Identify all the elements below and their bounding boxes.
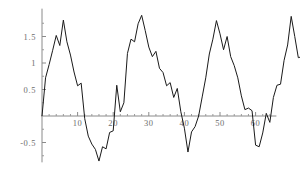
x-tick-label: 50 [215,118,225,128]
y-tick-label: 0.5 [24,85,36,95]
tick-labels-group: 102030405060-0.50.511.5 [20,32,260,148]
x-tick-label: 10 [73,118,83,128]
axes-group [41,9,276,163]
y-tick-label: 1.5 [24,32,36,42]
ticks-group [42,23,270,156]
chart-container: 102030405060-0.50.511.5 [0,0,300,177]
data-series-line [42,15,300,161]
x-tick-label: 60 [251,118,261,128]
x-tick-label: 30 [144,118,154,128]
line-chart: 102030405060-0.50.511.5 [0,0,300,177]
y-tick-label: -0.5 [20,138,36,148]
y-tick-label: 1 [31,58,36,68]
